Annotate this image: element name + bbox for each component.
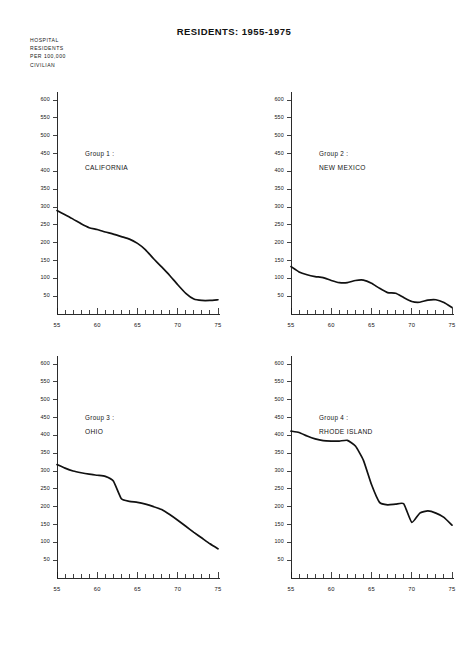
panel-state-label: RHODE ISLAND (319, 428, 373, 435)
y-axis-tick-label: 550 (40, 114, 50, 120)
y-axis-tick-label: 600 (40, 96, 50, 102)
y-axis-caption: HOSPITAL RESIDENTS PER 100,000 CIVILIAN (30, 36, 66, 69)
y-axis-tick-label: 250 (40, 221, 50, 227)
y-axis-tick-label: 400 (40, 431, 50, 437)
panel-group-label: Group 2 : (319, 150, 348, 158)
y-axis-tick-label: 250 (274, 485, 284, 491)
y-axis-tick-label: 200 (274, 503, 284, 509)
x-axis-tick-label: 75 (449, 586, 456, 592)
x-axis-tick-label: 70 (174, 322, 181, 328)
x-axis-tick-label: 75 (449, 322, 456, 328)
chart-panel-ohio: 5010015020025030035040045050055060055606… (0, 352, 234, 614)
panel-group-label: Group 3 : (85, 414, 114, 422)
data-series-line (57, 465, 218, 549)
panel-group-label: Group 4 : (319, 414, 348, 422)
y-axis-tick-label: 400 (40, 167, 50, 173)
data-series-line (291, 431, 452, 525)
x-axis-tick-label: 60 (328, 322, 335, 328)
y-axis-tick-label: 100 (274, 274, 284, 280)
y-axis-tick-label: 250 (274, 221, 284, 227)
x-axis-tick-label: 55 (54, 322, 61, 328)
x-axis-tick-label: 70 (408, 322, 415, 328)
y-axis-tick-label: 450 (40, 150, 50, 156)
panel-group-label: Group 1 : (85, 150, 114, 158)
y-axis-tick-label: 300 (40, 467, 50, 473)
y-axis-tick-label: 300 (274, 467, 284, 473)
x-axis-tick-label: 65 (368, 586, 375, 592)
x-axis-tick-label: 65 (368, 322, 375, 328)
y-axis-tick-label: 350 (40, 449, 50, 455)
panel-state-label: OHIO (85, 428, 103, 435)
panel-state-label: CALIFORNIA (85, 164, 128, 171)
panel-state-label: NEW MEXICO (319, 164, 366, 171)
y-axis-tick-label: 150 (274, 257, 284, 263)
x-axis-tick-label: 60 (328, 586, 335, 592)
y-axis-caption-line-2: RESIDENTS (30, 44, 66, 52)
y-axis-tick-label: 100 (274, 538, 284, 544)
y-axis-tick-label: 450 (274, 150, 284, 156)
y-axis-tick-label: 100 (40, 538, 50, 544)
y-axis-tick-label: 450 (274, 414, 284, 420)
y-axis-caption-line-4: CIVILIAN (30, 61, 66, 69)
y-axis-tick-label: 50 (278, 556, 284, 562)
chart-panel-california: 5010015020025030035040045050055060055606… (0, 88, 234, 350)
y-axis-caption-line-3: PER 100,000 (30, 52, 66, 60)
y-axis-tick-label: 350 (40, 185, 50, 191)
y-axis-tick-label: 150 (40, 521, 50, 527)
x-axis-tick-label: 65 (134, 322, 141, 328)
y-axis-tick-label: 50 (278, 292, 284, 298)
y-axis-tick-label: 500 (40, 396, 50, 402)
y-axis-tick-label: 200 (40, 239, 50, 245)
page-title: RESIDENTS: 1955-1975 (0, 26, 468, 37)
y-axis-tick-label: 550 (274, 378, 284, 384)
x-axis-tick-label: 60 (94, 322, 101, 328)
chart-panel-new-mexico: 5010015020025030035040045050055060055606… (234, 88, 468, 350)
x-axis-tick-label: 60 (94, 586, 101, 592)
y-axis-tick-label: 250 (40, 485, 50, 491)
chart-panel-rhode-island: 5010015020025030035040045050055060055606… (234, 352, 468, 614)
y-axis-tick-label: 200 (40, 503, 50, 509)
y-axis-caption-line-1: HOSPITAL (30, 36, 66, 44)
y-axis-tick-label: 300 (274, 203, 284, 209)
y-axis-tick-label: 150 (40, 257, 50, 263)
y-axis-tick-label: 350 (274, 449, 284, 455)
x-axis-tick-label: 65 (134, 586, 141, 592)
data-series-line (57, 211, 218, 301)
x-axis-tick-label: 70 (174, 586, 181, 592)
figure-canvas: RESIDENTS: 1955-1975 HOSPITAL RESIDENTS … (0, 0, 468, 654)
y-axis-tick-label: 600 (274, 96, 284, 102)
y-axis-tick-label: 500 (274, 132, 284, 138)
x-axis-tick-label: 55 (288, 322, 295, 328)
y-axis-tick-label: 400 (274, 167, 284, 173)
y-axis-tick-label: 200 (274, 239, 284, 245)
y-axis-tick-label: 600 (274, 360, 284, 366)
y-axis-tick-label: 300 (40, 203, 50, 209)
y-axis-tick-label: 400 (274, 431, 284, 437)
y-axis-tick-label: 100 (40, 274, 50, 280)
data-series-line (291, 267, 452, 308)
y-axis-tick-label: 600 (40, 360, 50, 366)
x-axis-tick-label: 55 (54, 586, 61, 592)
y-axis-tick-label: 500 (274, 396, 284, 402)
x-axis-tick-label: 75 (215, 322, 222, 328)
x-axis-tick-label: 55 (288, 586, 295, 592)
x-axis-tick-label: 75 (215, 586, 222, 592)
y-axis-tick-label: 50 (44, 292, 50, 298)
y-axis-tick-label: 550 (274, 114, 284, 120)
y-axis-tick-label: 550 (40, 378, 50, 384)
y-axis-tick-label: 350 (274, 185, 284, 191)
x-axis-tick-label: 70 (408, 586, 415, 592)
y-axis-tick-label: 500 (40, 132, 50, 138)
y-axis-tick-label: 50 (44, 556, 50, 562)
y-axis-tick-label: 150 (274, 521, 284, 527)
y-axis-tick-label: 450 (40, 414, 50, 420)
